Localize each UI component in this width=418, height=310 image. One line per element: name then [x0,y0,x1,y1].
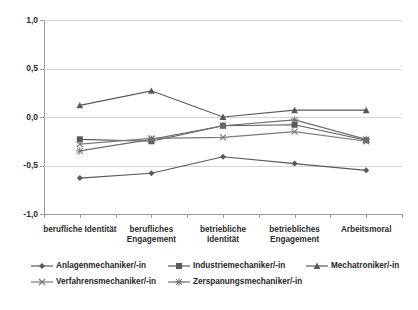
data-point-diamond [220,154,226,160]
data-point-asterisk [76,147,83,154]
series-layer [44,20,402,214]
x-category-tick [402,214,403,218]
legend-marker-asterisk-icon [167,276,191,288]
x-tick-mark [80,214,81,218]
x-category-tick [44,214,45,218]
x-category-tick [187,214,188,218]
x-tick-mark [151,214,152,218]
data-point-asterisk [148,136,155,143]
legend-marker-diamond-icon [30,260,54,272]
legend-label: Zerspanungsmechaniker/-in [193,278,302,286]
legend-row: Anlagenmechaniker/-inIndustriemechaniker… [30,258,410,274]
y-tick-label: -0,5 [23,161,38,170]
x-tick-label: berufliches Engagement [127,225,176,246]
x-tick-label: betriebliches Engagement [269,225,320,246]
series-2 [76,87,369,120]
legend-label: Verfahrensmechaniker/-in [56,278,156,286]
y-tick-label: -1,0 [23,210,38,219]
legend-marker-cross-icon [30,276,54,288]
data-point-diamond [292,161,298,167]
legend-label: Mechatroniker/-in [331,262,399,270]
y-tick-label: 0,5 [26,64,38,73]
x-category-tick [259,214,260,218]
data-point-diamond [148,170,154,176]
data-point-diamond [77,175,83,181]
data-point-asterisk [175,278,182,285]
data-point-asterisk [219,122,226,129]
legend-item[interactable]: Verfahrensmechaniker/-in [30,274,156,290]
legend-marker-triangle-icon [305,260,329,272]
x-tick-label: berufliche Identität [43,225,116,235]
y-tick-label: 0,0 [26,113,38,122]
series-line [80,91,366,117]
legend-item[interactable]: Industriemechaniker/-in [167,258,285,274]
x-tick-label: Arbeitsmoral [341,225,392,235]
chart-legend: Anlagenmechaniker/-inIndustriemechaniker… [30,258,410,300]
line-chart: 1,00,50,0-0,5-1,0 berufliche Identitätbe… [0,0,418,310]
legend-marker-square-icon [167,260,191,272]
data-point-triangle [148,87,155,93]
data-point-asterisk [291,116,298,123]
legend-label: Anlagenmechaniker/-in [56,262,146,270]
data-point-diamond [39,263,45,269]
legend-row: Verfahrensmechaniker/-inZerspanungsmecha… [30,274,410,290]
plot-area [44,20,402,214]
data-point-square [176,263,182,269]
x-tick-label: betriebliche Identität [200,225,246,246]
x-tick-mark [295,214,296,218]
series-line [80,157,366,178]
data-point-asterisk [363,136,370,143]
x-tick-mark [223,214,224,218]
data-point-diamond [363,167,369,173]
x-category-tick [116,214,117,218]
y-tick-label: 1,0 [26,16,38,25]
series-0 [77,154,369,181]
legend-item[interactable]: Zerspanungsmechaniker/-in [167,274,302,290]
legend-label: Industriemechaniker/-in [193,262,285,270]
x-tick-mark [366,214,367,218]
legend-item[interactable]: Anlagenmechaniker/-in [30,258,146,274]
x-axis-labels: berufliche Identitätberufliches Engageme… [44,219,402,251]
legend-item[interactable]: Mechatroniker/-in [305,258,399,274]
x-category-tick [330,214,331,218]
